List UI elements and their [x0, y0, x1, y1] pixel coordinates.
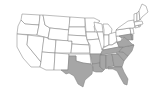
state-vt: [134, 13, 137, 22]
state-sd: [68, 27, 86, 36]
us-map: United States map with highlighted South…: [0, 0, 156, 99]
state-ms: [100, 55, 106, 70]
state-nd: [69, 17, 85, 27]
state-ar: [90, 54, 101, 64]
state-nm: [54, 53, 69, 70]
state-fl: [108, 67, 128, 85]
state-az: [40, 52, 55, 70]
state-ks: [71, 44, 90, 53]
state-wy: [48, 28, 69, 41]
state-ia: [86, 32, 99, 40]
state-ri: [139, 25, 141, 27]
state-co: [55, 40, 72, 53]
state-nj: [130, 28, 134, 34]
state-wi: [94, 22, 103, 32]
state-me: [139, 4, 148, 20]
state-shapes: [17, 4, 148, 87]
